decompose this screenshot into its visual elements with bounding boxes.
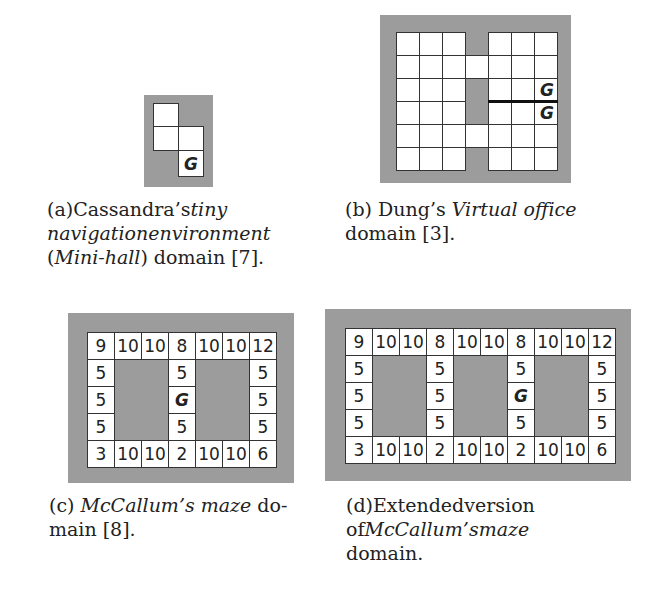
state-cell: 5: [588, 382, 616, 410]
state-cell: 8: [426, 328, 454, 356]
caption-line: domain.: [346, 541, 611, 565]
state-cell: 5: [87, 359, 115, 387]
grid-cell: [396, 55, 420, 79]
grid-cell: [419, 32, 443, 56]
grid-cell: [153, 103, 179, 127]
state-cell: 10: [141, 332, 169, 360]
grid-cell: [442, 55, 466, 79]
grid-cell: [534, 32, 558, 56]
grid-cell: [488, 78, 512, 102]
caption-b: (b) Dung’s Virtual officedomain [3].: [345, 197, 611, 245]
state-cell: 10: [222, 440, 250, 468]
caption-text: version: [464, 494, 535, 516]
state-cell: 5: [345, 355, 373, 383]
grid-cell: [419, 147, 443, 171]
grid-cell: [488, 32, 512, 56]
caption-text: domain [3].: [345, 222, 455, 244]
state-cell: 5: [345, 409, 373, 437]
state-cell: 5: [249, 359, 277, 387]
grid-cell: [442, 101, 466, 125]
grid-cell: [442, 78, 466, 102]
caption-line: domain [3].: [345, 221, 611, 245]
grid-cell: [178, 126, 204, 151]
state-cell: 5: [249, 413, 277, 441]
caption-text: Cassandra’s: [73, 198, 190, 220]
state-cell: 5: [426, 355, 454, 383]
caption-text: McCallum’s: [364, 518, 478, 540]
state-cell: 10: [141, 440, 169, 468]
state-cell: 10: [453, 436, 481, 464]
caption-text: maze: [479, 518, 530, 540]
grid-cell: [511, 101, 535, 125]
caption-text: main [8].: [49, 518, 136, 540]
grid-cell: [153, 126, 179, 151]
state-cell: 5: [249, 386, 277, 414]
state-cell: 5: [345, 382, 373, 410]
caption-text: Extended: [373, 494, 464, 516]
goal-cell: G: [178, 150, 204, 177]
state-cell: 2: [426, 436, 454, 464]
state-cell: 6: [588, 436, 616, 464]
caption-line: (c) McCallum’s maze do-: [49, 493, 311, 517]
state-cell: 5: [426, 409, 454, 437]
grid-cell: [419, 124, 443, 148]
state-cell: 2: [168, 440, 196, 468]
state-cell: 10: [561, 328, 589, 356]
corridor-cell: [465, 55, 489, 79]
caption-line: main [8].: [49, 517, 311, 541]
grid-cell: [534, 55, 558, 79]
caption-text: of: [346, 518, 364, 540]
grid-cell: [396, 101, 420, 125]
caption-text: ) domain [7].: [140, 246, 264, 268]
corridor-cell: [465, 124, 489, 148]
state-cell: 2: [507, 436, 535, 464]
state-cell: 10: [114, 440, 142, 468]
state-cell: 9: [87, 332, 115, 360]
caption-line: navigationenvironment: [47, 221, 313, 245]
caption-line: ofMcCallum’smaze: [346, 517, 611, 541]
state-cell: 12: [588, 328, 616, 356]
caption-text: Virtual office: [452, 198, 577, 220]
caption-text: environment: [148, 222, 270, 244]
goal-cell: G: [534, 101, 558, 125]
grid-cell: [511, 124, 535, 148]
state-cell: 10: [453, 328, 481, 356]
grid-cell: [419, 55, 443, 79]
caption-d: (d)ExtendedversionofMcCallum’smazedomain…: [346, 493, 611, 565]
grid-cell: [396, 32, 420, 56]
grid-cell: [419, 78, 443, 102]
caption-line: (b) Dung’s Virtual office: [345, 197, 611, 221]
state-cell: 5: [507, 355, 535, 383]
state-cell: 8: [507, 328, 535, 356]
caption-text: Mini-hall: [54, 246, 140, 268]
state-cell: 5: [588, 409, 616, 437]
caption-line: (d)Extendedversion: [346, 493, 611, 517]
caption-text: McCallum’s maze: [81, 494, 252, 516]
state-cell: 3: [345, 436, 373, 464]
caption-text: navigation: [47, 222, 148, 244]
grid-cell: [442, 147, 466, 171]
grid-cell: [511, 32, 535, 56]
state-cell: 10: [222, 332, 250, 360]
state-cell: 5: [168, 413, 196, 441]
state-cell: 5: [588, 355, 616, 383]
state-cell: 5: [87, 413, 115, 441]
goal-cell: G: [534, 78, 558, 102]
caption-line: (Mini-hall) domain [7].: [47, 245, 313, 269]
state-cell: 8: [168, 332, 196, 360]
caption-text: (a): [47, 198, 73, 220]
state-cell: 10: [480, 436, 508, 464]
caption-text: do-: [251, 494, 287, 516]
state-cell: 10: [372, 328, 400, 356]
grid-cell: [419, 101, 443, 125]
grid-cell: [511, 55, 535, 79]
state-cell: 10: [114, 332, 142, 360]
grid-cell: [396, 124, 420, 148]
grid-cell: [511, 147, 535, 171]
caption-text: tiny: [190, 198, 227, 220]
state-cell: 9: [345, 328, 373, 356]
state-cell: 10: [534, 328, 562, 356]
state-cell: 5: [87, 386, 115, 414]
grid-cell: [396, 147, 420, 171]
state-cell: 5: [168, 359, 196, 387]
